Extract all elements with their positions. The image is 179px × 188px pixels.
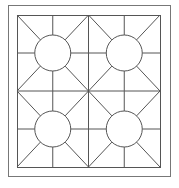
spoke-line (89, 66, 112, 91)
spoke-line (65, 66, 88, 91)
quilt-diagram (0, 0, 179, 188)
spoke-line (17, 15, 40, 40)
quadrant-bottom-left (17, 91, 89, 167)
spoke-line (65, 142, 88, 167)
spoke-line (17, 66, 40, 91)
spoke-line (89, 15, 112, 40)
quadrant-circle (35, 35, 71, 71)
quadrant-circle (106, 35, 142, 71)
quadrant-bottom-right (89, 91, 161, 167)
quadrant-top-right (89, 15, 161, 91)
spoke-line (137, 142, 160, 167)
spoke-line (17, 91, 40, 116)
spoke-line (137, 15, 160, 40)
spoke-line (137, 91, 160, 116)
quadrant-circle (35, 111, 71, 147)
spoke-line (89, 142, 112, 167)
spoke-line (65, 15, 88, 40)
spoke-line (137, 66, 160, 91)
quadrant-circle (106, 111, 142, 147)
spoke-line (17, 142, 40, 167)
spoke-line (65, 91, 88, 116)
spoke-line (89, 91, 112, 116)
quadrant-top-left (17, 15, 89, 91)
